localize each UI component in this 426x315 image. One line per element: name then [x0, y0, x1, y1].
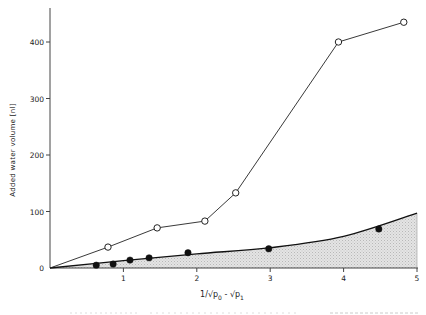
- y-tick-label: 100: [30, 208, 45, 217]
- open-circle-marker: [401, 19, 407, 25]
- series-lines: [50, 22, 417, 268]
- x-tick-label: 5: [415, 274, 420, 283]
- hatched-region: [50, 213, 417, 268]
- y-axis-label: Added water volume [nl]: [9, 103, 17, 197]
- filled-circle-marker: [127, 257, 133, 263]
- x-tick-label: 4: [341, 274, 346, 283]
- series-markers: [93, 19, 407, 268]
- caption-strip: [0, 309, 426, 315]
- x-tick-label: 2: [194, 274, 199, 283]
- open-circle-marker: [105, 244, 111, 250]
- open-circle-marker: [154, 225, 160, 231]
- y-tick-label: 300: [30, 95, 45, 104]
- shaded-area: [50, 213, 417, 268]
- filled-circle-marker: [110, 261, 116, 267]
- axes: [50, 8, 418, 268]
- filled-circle-marker: [376, 226, 382, 232]
- x-tick-label: 3: [268, 274, 273, 283]
- open-circle-marker: [233, 190, 239, 196]
- x-ticks: 12345: [121, 268, 420, 283]
- y-tick-label: 200: [30, 151, 45, 160]
- filled-circle-marker: [93, 262, 99, 268]
- filled-circle-marker: [266, 246, 272, 252]
- x-axis-label: 1/√p0 - √p1: [200, 290, 244, 301]
- y-ticks: 0100200300400: [30, 38, 50, 273]
- x-tick-label: 1: [121, 274, 126, 283]
- y-tick-label: 400: [30, 38, 45, 47]
- open-series-line: [50, 22, 404, 268]
- open-circle-marker: [202, 218, 208, 224]
- y-tick-label: 0: [39, 264, 44, 273]
- chart: 0100200300400 12345 Added water volume […: [0, 0, 426, 315]
- open-circle-marker: [335, 39, 341, 45]
- filled-circle-marker: [146, 255, 152, 261]
- filled-circle-marker: [185, 250, 191, 256]
